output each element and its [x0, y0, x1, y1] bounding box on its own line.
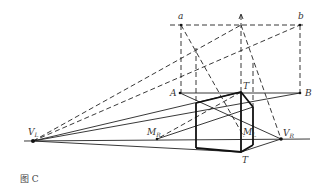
figure-caption: 图 C: [20, 174, 39, 184]
dashed-VL-to-center: [33, 25, 241, 141]
label-MR: MR: [146, 127, 161, 138]
point-MR: [156, 138, 159, 141]
label-ML: ML: [242, 127, 256, 138]
label-VL: VL: [28, 127, 39, 138]
point-A: [179, 92, 182, 95]
label-B: B: [304, 88, 312, 98]
label-T: T: [242, 155, 249, 165]
label-a: a: [178, 11, 183, 21]
dashed-VL-to-b: [33, 25, 300, 141]
point-B: [299, 92, 302, 95]
line-VL-to-B: [33, 93, 300, 141]
point-VL: [31, 139, 35, 143]
label-VR: VR: [283, 128, 295, 139]
line-T-to-VR: [241, 139, 281, 152]
line-VL-to-T: [33, 141, 241, 152]
point-b: [299, 24, 301, 26]
label-A: A: [169, 88, 177, 98]
label-T-prime: T′: [243, 80, 251, 91]
horizon-line: [24, 139, 310, 141]
label-b: b: [298, 11, 304, 21]
point-a: [180, 24, 182, 26]
perspective-diagram: a b A B T′ T VL VR MR ML 图 C: [0, 0, 331, 184]
